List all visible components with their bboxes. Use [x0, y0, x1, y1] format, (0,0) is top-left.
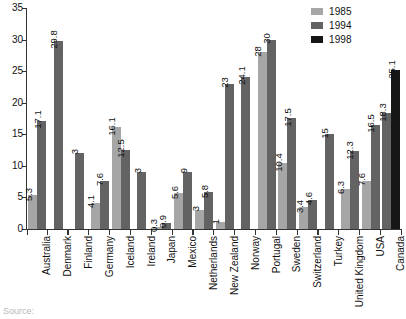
bar[interactable]: 29.8 [54, 41, 63, 229]
x-tick-cell [48, 230, 69, 235]
x-label-cell: Denmark [48, 236, 69, 308]
bar[interactable]: 4.6 [308, 200, 317, 229]
bar[interactable]: 25.1 [391, 70, 400, 228]
x-tick-cell [173, 230, 194, 235]
bar[interactable]: 3 [137, 172, 146, 229]
x-tick-cell [27, 230, 48, 235]
y-tick-label: 10 [12, 161, 23, 171]
bar-group: 16.112.5 [110, 8, 131, 229]
bar-value-label: 9 [178, 168, 188, 173]
y-tick-label: 15 [12, 129, 23, 139]
x-label-cell: United Kingdom [339, 236, 360, 308]
bar-group: 5.317.1 [27, 8, 48, 229]
bar-group: 3.44.6 [298, 8, 319, 229]
bar-value-label: 1 [211, 219, 221, 224]
bar-value-label: 3 [132, 168, 142, 173]
bar-value-label: 15 [320, 128, 330, 139]
bar[interactable]: 7.6 [362, 181, 371, 229]
bar-value-label: 16.1 [107, 117, 117, 136]
x-label-cell: Canada [381, 236, 402, 308]
bar[interactable]: 12.5 [121, 150, 130, 229]
bar-value-label: 5.8 [199, 184, 209, 197]
y-tick-label: 35 [12, 3, 23, 13]
x-tick-cell [214, 230, 235, 235]
bar-group: 5.69 [173, 8, 194, 229]
x-tick-cell [69, 230, 90, 235]
bar[interactable]: 12.3 [350, 151, 359, 229]
bar[interactable]: 10.4 [278, 163, 287, 229]
x-label-cell: Iceland [110, 236, 131, 308]
bar-value-label: 6.3 [336, 181, 346, 194]
bar[interactable]: 17.1 [37, 121, 46, 229]
bar-value-label: 12.5 [116, 140, 126, 159]
bar-value-label: 7.6 [357, 173, 367, 186]
bar-value-label: 10.4 [273, 153, 283, 172]
bar-value-label: 12.3 [345, 141, 355, 160]
x-label-cell: Norway [235, 236, 256, 308]
x-label-cell: Finland [69, 236, 90, 308]
bar[interactable]: 18.3 [382, 113, 391, 228]
bar-value-label: 3 [190, 206, 200, 211]
bar-value-label: 28 [253, 46, 263, 57]
bar[interactable]: 24.1 [241, 77, 250, 229]
x-tick-cell [152, 230, 173, 235]
bar-chart: 198519941998 05101520253035 5.317.129.83… [0, 0, 406, 319]
bar[interactable]: 16.5 [371, 125, 380, 229]
bar-value-label: 30 [262, 33, 272, 44]
x-tick-cell [319, 230, 340, 235]
x-tick-cell [381, 230, 402, 235]
x-axis-ticks [27, 230, 402, 235]
x-tick-cell [256, 230, 277, 235]
bar[interactable]: 3.4 [299, 207, 308, 228]
bar[interactable]: 7.6 [100, 181, 109, 229]
x-axis-label-canada: Canada [396, 236, 406, 271]
x-tick-cell [110, 230, 131, 235]
plot-area: 05101520253035 5.317.129.834.17.616.112.… [26, 8, 402, 230]
bar-group: 18.325.1 [381, 8, 402, 229]
x-label-cell: New Zealand [214, 236, 235, 308]
bar-group: 15 [319, 8, 340, 229]
x-label-cell: Australia [27, 236, 48, 308]
bar[interactable]: 3 [195, 210, 204, 229]
bar-value-label: 29.8 [49, 31, 59, 50]
bar-value-label: 5.6 [169, 186, 179, 199]
x-tick-cell [131, 230, 152, 235]
x-axis-labels: AustraliaDenmarkFinlandGermanyIcelandIre… [27, 236, 402, 308]
bar-value-label: 4.1 [86, 195, 96, 208]
bar-group: 10.417.5 [277, 8, 298, 229]
y-tick-label: 20 [12, 98, 23, 108]
bar-group: 24.1 [235, 8, 256, 229]
x-tick-cell [89, 230, 110, 235]
x-label-cell: Netherlands [194, 236, 215, 308]
bar[interactable]: 23 [225, 84, 234, 229]
bar[interactable]: 9 [183, 172, 192, 229]
bar[interactable]: 4.1 [91, 203, 100, 229]
x-label-cell: Japan [152, 236, 173, 308]
y-tick-label: 0 [17, 224, 23, 234]
bar-value-label: 7.6 [95, 173, 105, 186]
bar-groups: 5.317.129.834.17.616.112.530.30.95.6935.… [27, 8, 402, 229]
bar-value-label: 3 [70, 149, 80, 154]
bar[interactable]: 5.3 [28, 195, 37, 228]
y-tick-label: 30 [12, 35, 23, 45]
x-label-cell: Germany [89, 236, 110, 308]
bar[interactable]: 5.6 [174, 193, 183, 228]
y-tick-label: 25 [12, 66, 23, 76]
x-label-cell: Sweden [277, 236, 298, 308]
bar[interactable]: 15 [325, 134, 334, 229]
bar-value-label: 25.1 [386, 60, 396, 79]
bar[interactable]: 3 [75, 153, 84, 229]
x-label-cell: Switzerland [298, 236, 319, 308]
bar-group: 2830 [256, 8, 277, 229]
x-tick-cell [298, 230, 319, 235]
bar[interactable]: 6.3 [341, 189, 350, 229]
bar-value-label: 16.5 [366, 114, 376, 133]
bar[interactable]: 1 [216, 222, 225, 228]
bar[interactable]: 30 [267, 40, 276, 229]
bar[interactable]: 0.9 [162, 223, 171, 229]
bar-value-label: 23 [220, 77, 230, 88]
x-label-cell: Portugal [256, 236, 277, 308]
x-tick-mark [401, 230, 402, 235]
bar[interactable]: 28 [258, 52, 267, 228]
bar-value-label: 4.6 [303, 192, 313, 205]
